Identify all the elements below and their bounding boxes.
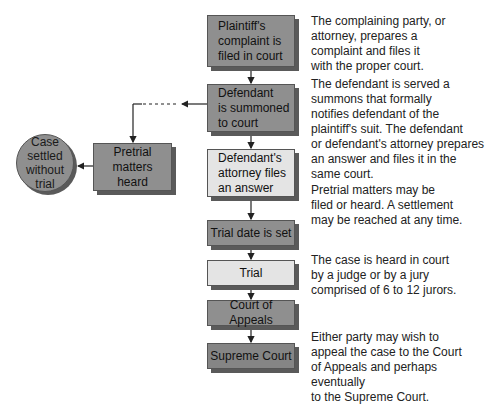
description-appeals: Either party may wish to appeal the case… xyxy=(311,330,485,405)
description-complaint: The complaining party, or attorney, prep… xyxy=(311,14,446,74)
step-trial-date-label: Trial date is set xyxy=(211,226,292,241)
description-trial: The case is heard in court by a judge or… xyxy=(311,253,456,298)
step-answer-label: Defendant's attorney files an answer xyxy=(218,151,286,196)
step-supreme-court: Supreme Court xyxy=(207,343,295,369)
branch-pretrial-matters: Pretrial matters heard xyxy=(93,143,172,191)
step-answer-filed: Defendant's attorney files an answer xyxy=(207,149,295,197)
step-court-of-appeals: Court of Appeals xyxy=(207,300,295,326)
step-supreme-label: Supreme Court xyxy=(210,349,291,364)
step-trial: Trial xyxy=(207,260,295,286)
step-complaint-label: Plaintiff's complaint is filed in court xyxy=(218,19,283,64)
description-summons: The defendant is served a summons that f… xyxy=(311,77,484,182)
settled-label: Case settled without trial xyxy=(26,135,64,191)
pretrial-label: Pretrial matters heard xyxy=(112,145,152,190)
step-appeals-label: Court of Appeals xyxy=(208,298,294,328)
step-trial-date-set: Trial date is set xyxy=(207,220,295,246)
step-summoned-label: Defendant is summoned to court xyxy=(218,86,289,131)
step-defendant-summoned: Defendant is summoned to court xyxy=(207,84,295,132)
description-pretrial: Pretrial matters may be filed or heard. … xyxy=(311,183,462,228)
branch-case-settled: Case settled without trial xyxy=(16,134,74,192)
step-complaint-filed: Plaintiff's complaint is filed in court xyxy=(207,15,295,67)
step-trial-label: Trial xyxy=(240,266,263,281)
